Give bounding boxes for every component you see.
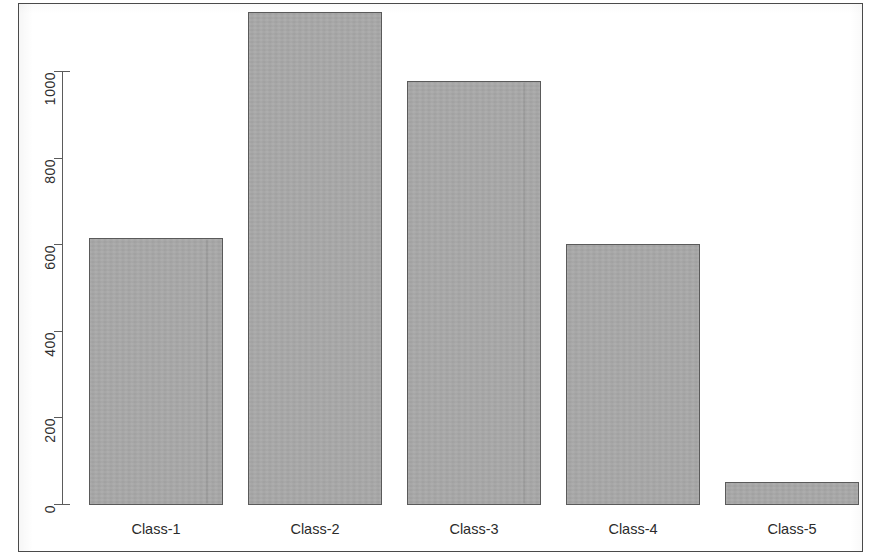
- x-label-class-2: Class-2: [248, 521, 382, 537]
- y-tick-label-400: 400: [42, 332, 58, 390]
- bar-class-1[interactable]: [89, 238, 223, 505]
- y-axis-line: [62, 71, 63, 505]
- x-label-class-1: Class-1: [89, 521, 223, 537]
- y-axis-cap-bottom: [62, 504, 70, 505]
- x-label-class-5: Class-5: [725, 521, 859, 537]
- y-axis-cap-top: [62, 71, 70, 72]
- y-tick-label-800: 800: [42, 159, 58, 217]
- bar-chart-plot: 0 200 400 600 800 1000 Class-1 Class-2 C…: [0, 0, 870, 556]
- x-label-class-4: Class-4: [566, 521, 700, 537]
- bar-class-3[interactable]: [407, 81, 541, 505]
- y-tick-label-1000: 1000: [42, 72, 58, 130]
- bar-class-4[interactable]: [566, 244, 700, 505]
- y-tick-label-0: 0: [42, 505, 58, 556]
- y-tick-label-200: 200: [42, 418, 58, 476]
- bar-class-2[interactable]: [248, 12, 382, 505]
- y-tick-label-600: 600: [42, 245, 58, 303]
- x-label-class-3: Class-3: [407, 521, 541, 537]
- bar-class-5[interactable]: [725, 482, 859, 505]
